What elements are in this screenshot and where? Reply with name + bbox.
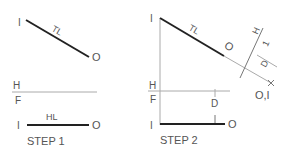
- step1-caption: STEP 1: [27, 135, 65, 147]
- step1-front-end-a: I: [17, 120, 20, 131]
- step2-caption: STEP 2: [160, 134, 198, 146]
- step2-fold-upper: H: [149, 80, 156, 91]
- step2-point-view-label: O,I: [255, 89, 270, 101]
- step2-aux-fold-line: [240, 28, 263, 78]
- step2-aux-fold-far: 1: [260, 39, 271, 48]
- step1-front-end-b: O: [92, 119, 101, 131]
- step2-front-distance-label: D: [211, 98, 218, 109]
- step1-top-end-b: O: [92, 51, 101, 63]
- step1-group: I TL O H F HL I O STEP 1: [12, 17, 101, 147]
- step2-top-end-b: O: [223, 39, 237, 54]
- descriptive-geometry-diagram: I TL O H F HL I O STEP 1 I TL O H 1 D O,…: [0, 0, 290, 156]
- step2-top-end-a: I: [150, 13, 153, 24]
- step1-fold-upper: H: [13, 80, 20, 91]
- step2-fold-lower: F: [150, 94, 156, 105]
- step1-top-end-a: I: [18, 17, 21, 28]
- step1-fold-lower: F: [15, 95, 21, 106]
- step2-front-end-a: I: [150, 120, 153, 131]
- step2-group: I TL O H 1 D O,I H F D I O STEP 2: [148, 13, 277, 146]
- step1-front-line-label: HL: [46, 112, 58, 122]
- step2-front-end-b: O: [228, 118, 237, 130]
